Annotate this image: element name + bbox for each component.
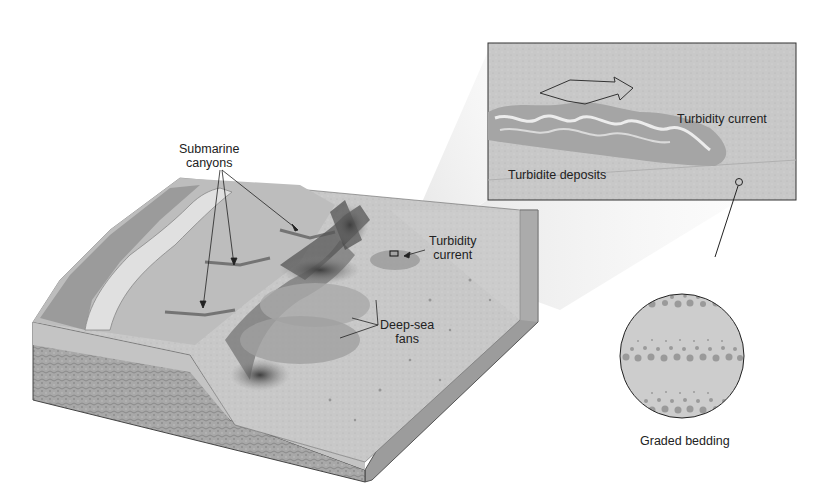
label-submarine-canyons: Submarine canyons: [179, 142, 239, 170]
label-line: fans: [380, 332, 434, 346]
label-line: Submarine: [179, 142, 239, 156]
graded-bedding-circle: [620, 288, 744, 418]
label-line: Deep-sea: [380, 318, 434, 332]
label-line: Turbidity: [429, 234, 476, 248]
inset-label-turbidite-deposits: Turbidite deposits: [508, 168, 606, 182]
caption-graded-bedding: Graded bedding: [640, 434, 730, 448]
inset-label-turbidity-current: Turbidity current: [677, 112, 767, 126]
diagram-canvas: [0, 0, 823, 500]
block-diagram: [33, 178, 538, 482]
label-line: current: [429, 248, 476, 262]
label-line: canyons: [179, 156, 239, 170]
label-deep-sea-fans: Deep-sea fans: [380, 318, 434, 346]
label-turbidity-current: Turbidity current: [429, 234, 476, 262]
